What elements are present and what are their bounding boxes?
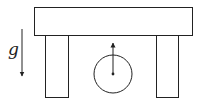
right-leg bbox=[157, 36, 179, 98]
left-leg bbox=[46, 36, 69, 98]
diagram-canvas: g bbox=[0, 0, 201, 102]
gravity-label: g bbox=[8, 39, 19, 59]
table-top bbox=[35, 8, 193, 36]
